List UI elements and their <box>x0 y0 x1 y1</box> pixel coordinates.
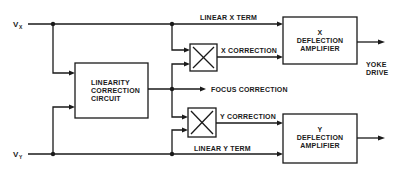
svg-text:DRIVE: DRIVE <box>366 69 389 76</box>
svg-text:AMPLIFIER: AMPLIFIER <box>300 142 340 149</box>
svg-text:DEFLECTION: DEFLECTION <box>297 134 344 141</box>
svg-text:CORRECTION: CORRECTION <box>91 87 140 94</box>
x-multiplier-block <box>190 44 217 71</box>
svg-text:AMPLIFIER: AMPLIFIER <box>300 45 340 52</box>
vx-input-label: V X <box>13 20 23 30</box>
vx-to-xmult-wire <box>172 24 187 50</box>
arrowhead-icon <box>69 71 75 76</box>
arrowhead-icon <box>277 121 283 126</box>
y-multiplier-block <box>188 108 216 137</box>
arrowhead-icon <box>277 152 283 157</box>
arrowhead-icon <box>184 62 190 67</box>
arrowhead-icon <box>184 48 190 53</box>
arrowhead-icon <box>182 128 188 133</box>
vy-to-lcc-wire <box>53 107 72 154</box>
svg-text:Y: Y <box>19 154 23 160</box>
linear-x-term-label: LINEAR X TERM <box>200 14 257 21</box>
focus-correction-label: FOCUS CORRECTION <box>211 86 288 93</box>
y-correction-label: Y CORRECTION <box>220 113 276 120</box>
arrowhead-icon <box>182 115 188 120</box>
x-correction-label: X CORRECTION <box>221 47 277 54</box>
block-diagram: V X V Y LINEARITY CORRECTION CIRCUIT FOC… <box>0 0 400 173</box>
svg-text:DEFLECTION: DEFLECTION <box>297 37 344 44</box>
arrowhead-icon <box>69 105 75 110</box>
arrowhead-icon <box>277 22 283 27</box>
yoke-drive-label: YOKE <box>366 61 387 68</box>
svg-text:X: X <box>19 24 23 30</box>
arrowhead-icon <box>378 40 385 45</box>
lcc-to-xmult-wire <box>172 64 187 89</box>
lcc-to-ymult-wire <box>172 89 185 117</box>
vx-to-lcc-wire <box>53 24 72 73</box>
linear-y-term-label: LINEAR Y TERM <box>194 145 251 152</box>
vy-input-label: V Y <box>13 150 23 160</box>
arrowhead-icon <box>200 87 206 92</box>
arrowhead-icon <box>277 55 283 60</box>
svg-text:LINEARITY: LINEARITY <box>91 79 130 86</box>
svg-text:Y: Y <box>318 126 323 133</box>
vy-to-ymult-wire <box>172 130 185 154</box>
svg-text:CIRCUIT: CIRCUIT <box>91 95 121 102</box>
svg-text:X: X <box>318 29 323 36</box>
arrowhead-icon <box>378 136 385 141</box>
